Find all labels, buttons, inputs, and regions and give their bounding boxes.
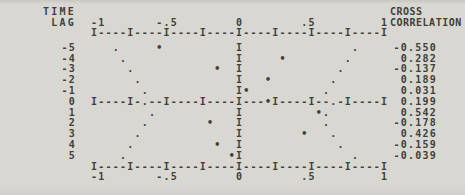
time-lag-header-line1: TIME — [0, 6, 91, 17]
ccf-plot-line: . •I . — [91, 151, 389, 162]
lag-label: 3 — [0, 129, 91, 140]
header-gap — [91, 6, 389, 17]
ccf-row: 0I----I-.--I----I----I---•I----I--.-I---… — [0, 97, 465, 108]
lag-label: -1 — [0, 86, 91, 97]
lag-label: -2 — [0, 75, 91, 86]
ccf-printout-page: TIME CROSS LAG -1 -.5 0 .5 1 CORRELATION… — [0, 0, 465, 195]
time-lag-header-line2: LAG — [0, 17, 91, 28]
ccf-row: 5 . •I . -0.039 — [0, 151, 465, 162]
bottom-axis-labels-row: -1 -.5 0 .5 1 — [0, 172, 465, 183]
header-row-1: TIME CROSS — [0, 6, 465, 17]
axis-ruler-top: I----I----I----I----I----I----I----I----… — [91, 28, 389, 39]
ccf-value: -0.550 — [389, 43, 465, 54]
ccf-row: -5 . • I . -0.550 — [0, 43, 465, 54]
ccf-value: -0.039 — [389, 151, 465, 162]
x-axis-bottom-tick-labels: -1 -.5 0 .5 1 — [91, 172, 389, 183]
ccf-plot-body: -5 . • I . -0.550-4 . I • . 0.282-3 . • … — [0, 43, 465, 162]
lag-label: 2 — [0, 118, 91, 129]
lag-label: 5 — [0, 151, 91, 162]
ccf-plot-line: . • I . — [91, 43, 389, 54]
lag-label: 4 — [0, 140, 91, 151]
lag-label: 1 — [0, 108, 91, 119]
ccf-value: 0.199 — [389, 97, 465, 108]
cross-correlation-header-line1: CROSS — [389, 6, 465, 17]
lag-label: 0 — [0, 97, 91, 108]
cross-correlation-header-line2: CORRELATION — [389, 17, 465, 28]
lag-label: -3 — [0, 64, 91, 75]
ccf-plot-line: I----I-.--I----I----I---•I----I--.-I----… — [91, 97, 389, 108]
lag-label: -4 — [0, 54, 91, 65]
lag-label: -5 — [0, 43, 91, 54]
top-ruler-row: I----I----I----I----I----I----I----I----… — [0, 28, 465, 39]
